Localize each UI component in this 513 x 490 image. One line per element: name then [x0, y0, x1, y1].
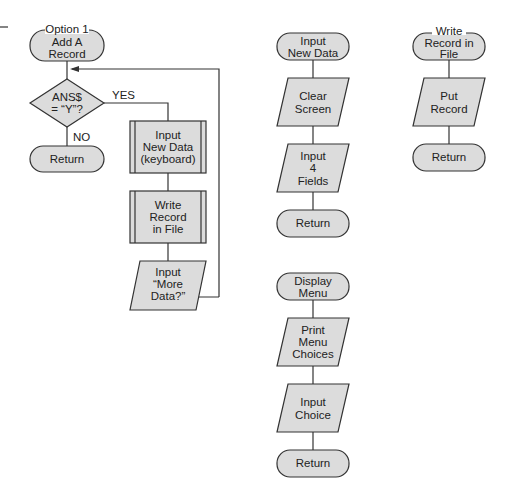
- svg-text:4: 4: [310, 162, 317, 174]
- node-input-new-data-keyboard: Input New Data (keyboard): [130, 121, 206, 173]
- svg-text:Menu: Menu: [299, 287, 328, 299]
- svg-text:Fields: Fields: [298, 175, 329, 187]
- node-input-new-data-start: Input New Data: [277, 33, 349, 60]
- node-display-menu-start: Display Menu: [277, 273, 349, 300]
- node-input-4-fields: Input 4 Fields: [277, 144, 349, 192]
- svg-text:Screen: Screen: [295, 103, 331, 115]
- svg-text:Option 1: Option 1: [45, 23, 88, 35]
- svg-text:Display: Display: [294, 275, 332, 287]
- svg-text:New Data: New Data: [288, 47, 339, 59]
- svg-text:File: File: [440, 48, 459, 60]
- svg-text:Record: Record: [149, 211, 186, 223]
- svg-text:Clear: Clear: [299, 90, 327, 102]
- svg-text:Input: Input: [155, 129, 181, 141]
- flowchart-svg: Option 1 Add A Record ANS$ = “Y”? YES NO…: [0, 0, 513, 490]
- svg-text:Write: Write: [436, 25, 463, 37]
- node-put-record: Put Record: [413, 78, 485, 126]
- svg-text:Record: Record: [48, 48, 85, 60]
- node-decision-ans: ANS$ = “Y”?: [30, 79, 104, 127]
- svg-text:Write: Write: [155, 199, 182, 211]
- svg-text:= “Y”?: = “Y”?: [51, 103, 83, 115]
- node-write-record-start: Write Record in File: [413, 25, 485, 60]
- node-print-menu-choices: Print Menu Choices: [277, 318, 349, 366]
- svg-text:Return: Return: [50, 153, 85, 165]
- svg-text:Add A: Add A: [52, 36, 83, 48]
- svg-text:in File: in File: [153, 223, 184, 235]
- svg-text:Choice: Choice: [295, 409, 331, 421]
- node-option1-return: Return: [30, 146, 104, 172]
- svg-text:Print: Print: [301, 324, 325, 336]
- edge-label-no: NO: [73, 131, 90, 143]
- edge-label-yes: YES: [112, 89, 135, 101]
- node-display-menu-return: Return: [277, 450, 349, 477]
- node-input-new-data-return: Return: [277, 210, 349, 237]
- svg-text:Data?”: Data?”: [151, 290, 186, 302]
- svg-text:“More: “More: [153, 278, 183, 290]
- svg-text:Menu: Menu: [299, 336, 328, 348]
- svg-text:Choices: Choices: [292, 348, 334, 360]
- flowchart-canvas: Option 1 Add A Record ANS$ = “Y”? YES NO…: [0, 0, 513, 490]
- svg-text:Return: Return: [296, 457, 331, 469]
- svg-text:Input: Input: [300, 396, 326, 408]
- svg-text:ANS$: ANS$: [52, 91, 83, 103]
- node-option1-start: Option 1 Add A Record: [30, 23, 104, 61]
- svg-text:Input: Input: [300, 150, 326, 162]
- svg-text:New Data: New Data: [143, 141, 194, 153]
- svg-text:Record: Record: [430, 103, 467, 115]
- svg-text:Return: Return: [432, 151, 467, 163]
- node-write-record-return: Return: [413, 144, 485, 171]
- node-write-record-in-file: Write Record in File: [130, 191, 206, 243]
- svg-text:(keyboard): (keyboard): [141, 153, 196, 165]
- node-input-more-data: Input “More Data?”: [130, 261, 206, 310]
- svg-text:Return: Return: [296, 217, 331, 229]
- svg-text:Input: Input: [300, 35, 326, 47]
- node-clear-screen: Clear Screen: [277, 78, 349, 126]
- svg-text:Input: Input: [155, 266, 181, 278]
- svg-text:Put: Put: [440, 90, 458, 102]
- node-input-choice: Input Choice: [277, 384, 349, 432]
- arrowhead-icon: [70, 66, 79, 72]
